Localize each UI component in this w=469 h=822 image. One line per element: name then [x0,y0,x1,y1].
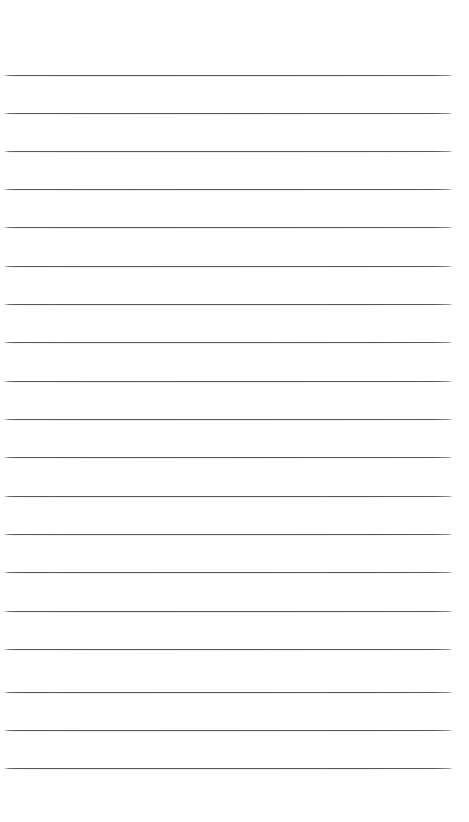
ruled-line [3,572,453,573]
lined-paper-page [0,0,469,822]
ruled-line [3,730,453,731]
ruled-line [3,151,453,152]
ruled-line [3,381,453,382]
ruled-line [3,611,453,612]
ruled-line [3,496,453,497]
ruled-line [3,304,453,305]
ruled-line [3,189,453,190]
ruled-line [3,113,453,114]
ruled-line [3,534,453,535]
ruled-line [3,266,453,267]
ruled-line [3,342,453,343]
ruled-line [3,649,453,650]
ruled-line [3,457,453,458]
ruled-line [3,768,453,769]
ruled-line [3,692,453,693]
ruled-line [3,419,453,420]
ruled-line [3,227,453,228]
ruled-line [3,75,453,76]
